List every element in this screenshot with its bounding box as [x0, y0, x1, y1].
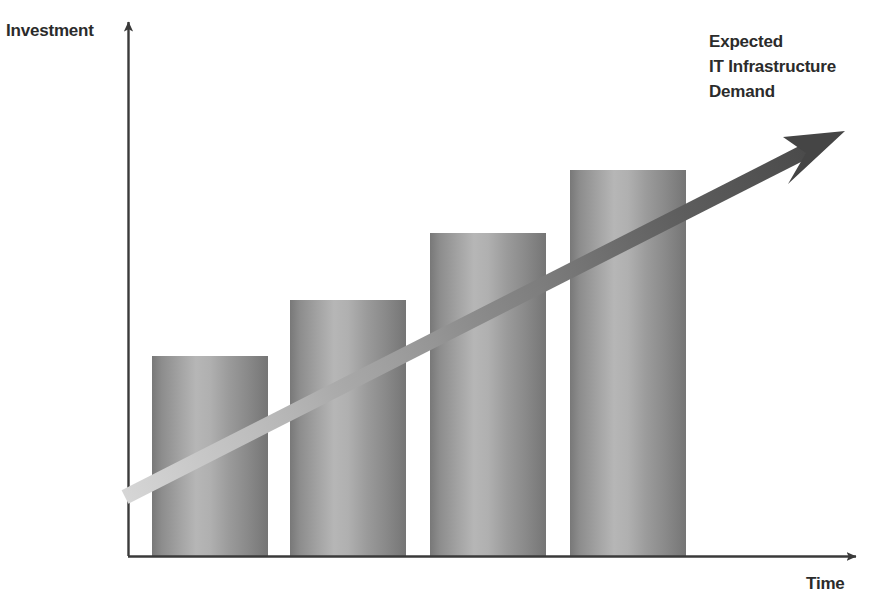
trend-annotation: Expected IT Infrastructure Demand: [709, 29, 836, 104]
trend-annotation-line-3: Demand: [709, 79, 836, 104]
bar-3: [430, 233, 546, 556]
chart-container: Investment Time Expected IT Infrastructu…: [0, 0, 880, 606]
bar-4: [570, 170, 686, 556]
x-axis-title: Time: [806, 574, 845, 594]
bar-1: [152, 356, 268, 556]
bar-2: [290, 300, 406, 556]
trend-annotation-line-1: Expected: [709, 29, 836, 54]
trend-annotation-line-2: IT Infrastructure: [709, 54, 836, 79]
y-axis-title: Investment: [6, 21, 94, 41]
